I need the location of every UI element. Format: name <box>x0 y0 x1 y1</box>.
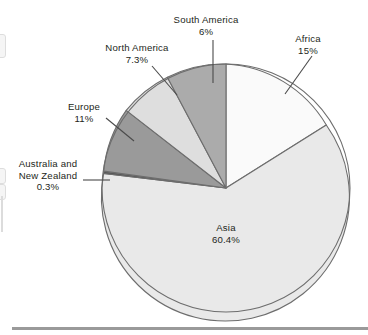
pie-label-south-america: South America 6% <box>146 14 266 37</box>
pie-label-africa-percent: 15% <box>276 45 340 57</box>
pie-label-south-america-percent: 6% <box>146 26 266 38</box>
pie-label-south-america-name: South America <box>146 14 266 26</box>
pie-label-asia-percent: 60.4% <box>178 234 274 246</box>
pie-label-australia-and-new-zealand-name-line1: Australia and <box>2 158 94 170</box>
pie-label-australia-and-new-zealand-name-line2: New Zealand <box>2 170 94 182</box>
pie-label-africa-name: Africa <box>276 33 340 45</box>
pie-label-north-america-percent: 7.3% <box>82 54 192 66</box>
pie-label-europe-percent: 11% <box>46 113 122 125</box>
pie-label-africa: Africa 15% <box>276 33 340 56</box>
pie-label-europe-name: Europe <box>46 101 122 113</box>
pie-chart-figure: South America 6% Africa 15% North Americ… <box>0 0 368 335</box>
pie-label-europe: Europe 11% <box>46 101 122 124</box>
leader-line-africa <box>285 56 312 94</box>
pie-label-australia-and-new-zealand-percent: 0.3% <box>2 181 94 193</box>
pie-label-north-america-name: North America <box>82 42 192 54</box>
pie-label-australia-and-new-zealand: Australia and New Zealand 0.3% <box>2 158 94 193</box>
pie-label-asia: Asia 60.4% <box>178 222 274 245</box>
bottom-divider-rule <box>12 327 368 330</box>
pie-label-north-america: North America 7.3% <box>82 42 192 65</box>
pie-label-asia-name: Asia <box>178 222 274 234</box>
